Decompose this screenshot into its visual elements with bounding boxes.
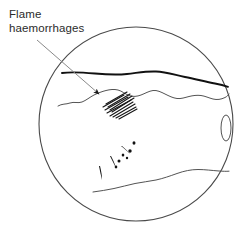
fundus-diagram-figure: Flame haemorrhages — [0, 0, 244, 238]
label-line-1: Flame — [9, 7, 84, 21]
dot-haemorrhage — [133, 141, 136, 144]
dot-haemorrhage — [115, 166, 118, 169]
dot-haemorrhage — [118, 159, 121, 162]
dot-haemorrhage — [122, 154, 125, 157]
label-line-2: haemorrhages — [9, 21, 84, 35]
dot-haemorrhage — [126, 157, 128, 160]
fundus-outline-circle — [39, 27, 233, 221]
flame-haemorrhages-label: Flame haemorrhages — [9, 7, 84, 35]
fundus-illustration — [0, 0, 244, 238]
dot-haemorrhage — [128, 149, 131, 153]
